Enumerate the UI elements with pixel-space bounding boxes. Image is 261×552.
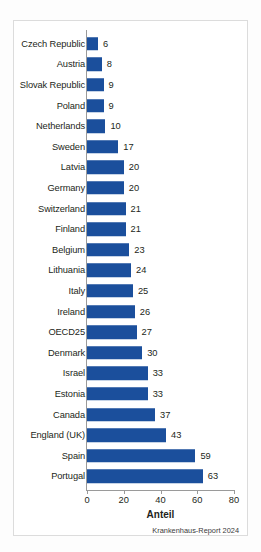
- bar-value-label: 9: [109, 101, 114, 111]
- bar-row: Spain59: [14, 445, 249, 467]
- bar-value-label: 6: [103, 39, 108, 49]
- bar: [87, 470, 203, 484]
- bar-value-label: 27: [142, 327, 152, 337]
- bar-row: Finland21: [14, 218, 249, 240]
- bar-value-label: 26: [140, 307, 150, 317]
- bar-row: Estonia33: [14, 383, 249, 405]
- category-label: Latvia: [61, 162, 85, 172]
- x-tick-label: 40: [155, 495, 165, 505]
- category-label: Denmark: [48, 348, 85, 358]
- bar-row: Canada37: [14, 404, 249, 426]
- bar-row: Latvia20: [14, 157, 249, 179]
- bar-row: Austria8: [14, 54, 249, 76]
- bar-row: Czech Republic6: [14, 33, 249, 55]
- category-label: Ireland: [57, 307, 85, 317]
- bar-row: Lithuania24: [14, 260, 249, 282]
- bar-row: Poland9: [14, 95, 249, 117]
- bar: [87, 140, 118, 154]
- bar-value-label: 33: [153, 389, 163, 399]
- bar-value-label: 63: [208, 471, 218, 481]
- bar: [87, 428, 166, 442]
- bar: [87, 37, 98, 51]
- bar-value-label: 17: [123, 142, 133, 152]
- bar-value-label: 21: [131, 204, 141, 214]
- x-tick: [161, 490, 162, 494]
- bar-value-label: 20: [129, 183, 139, 193]
- category-label: England (UK): [30, 430, 85, 440]
- bar-value-label: 43: [171, 430, 181, 440]
- bar: [87, 161, 124, 175]
- category-label: Finland: [55, 224, 85, 234]
- bar: [87, 78, 104, 92]
- plot-area: Czech Republic6Austria8Slovak Republic9P…: [14, 21, 249, 537]
- category-label: Germany: [47, 183, 85, 193]
- bar-row: Sweden17: [14, 136, 249, 158]
- category-label: Netherlands: [36, 121, 85, 131]
- bar: [87, 99, 104, 113]
- bar: [87, 222, 126, 236]
- category-label: Israel: [63, 368, 85, 378]
- x-tick: [197, 490, 198, 494]
- bar: [87, 119, 105, 133]
- bar-row: England (UK)43: [14, 424, 249, 446]
- bar: [87, 264, 131, 278]
- bar-row: Slovak Republic9: [14, 74, 249, 96]
- bar-row: Denmark30: [14, 342, 249, 364]
- bar-value-label: 9: [109, 80, 114, 90]
- bar-row: OECD2527: [14, 321, 249, 343]
- category-label: Sweden: [52, 142, 85, 152]
- y-axis-line: [86, 30, 87, 490]
- category-label: Austria: [57, 59, 85, 69]
- category-label: Canada: [53, 410, 85, 420]
- bar-row: Germany20: [14, 177, 249, 199]
- bar-value-label: 20: [129, 162, 139, 172]
- bar: [87, 305, 135, 319]
- bar: [87, 367, 148, 381]
- bar: [87, 181, 124, 195]
- bar-value-label: 23: [134, 245, 144, 255]
- category-label: Czech Republic: [21, 39, 85, 49]
- bar-row: Switzerland21: [14, 198, 249, 220]
- bar-value-label: 37: [160, 410, 170, 420]
- category-label: Lithuania: [48, 265, 85, 275]
- source-note: Krankenhaus-Report 2024: [152, 526, 239, 535]
- category-label: OECD25: [48, 327, 85, 337]
- bar-value-label: 21: [131, 224, 141, 234]
- bar-row: Portugal63: [14, 466, 249, 488]
- x-tick-label: 0: [84, 495, 89, 505]
- bar-value-label: 33: [153, 368, 163, 378]
- bar-row: Ireland26: [14, 301, 249, 323]
- bar-value-label: 25: [138, 286, 148, 296]
- bar: [87, 58, 102, 72]
- bar: [87, 243, 129, 257]
- category-label: Switzerland: [38, 204, 85, 214]
- category-label: Slovak Republic: [20, 80, 85, 90]
- bar-row: Israel33: [14, 363, 249, 385]
- bar-value-label: 24: [136, 265, 146, 275]
- bar-value-label: 8: [107, 59, 112, 69]
- x-tick: [124, 490, 125, 494]
- category-label: Poland: [57, 101, 85, 111]
- chart-card: Czech Republic6Austria8Slovak Republic9P…: [13, 20, 248, 536]
- x-tick-label: 20: [119, 495, 129, 505]
- bar: [87, 408, 155, 422]
- bar: [87, 449, 195, 463]
- category-label: Italy: [68, 286, 85, 296]
- bar-value-label: 10: [110, 121, 120, 131]
- bar-row: Netherlands10: [14, 115, 249, 137]
- bar: [87, 284, 133, 298]
- x-tick-label: 80: [229, 495, 239, 505]
- x-tick: [234, 490, 235, 494]
- chart-page: Czech Republic6Austria8Slovak Republic9P…: [0, 0, 261, 552]
- bar-row: Belgium23: [14, 239, 249, 261]
- x-axis-title: Anteil: [87, 509, 234, 520]
- category-label: Spain: [62, 451, 85, 461]
- bar-value-label: 30: [147, 348, 157, 358]
- category-label: Portugal: [51, 471, 85, 481]
- category-label: Estonia: [55, 389, 85, 399]
- bar-row: Italy25: [14, 280, 249, 302]
- bar: [87, 325, 137, 339]
- bar-value-label: 59: [200, 451, 210, 461]
- bar: [87, 346, 142, 360]
- x-tick: [87, 490, 88, 494]
